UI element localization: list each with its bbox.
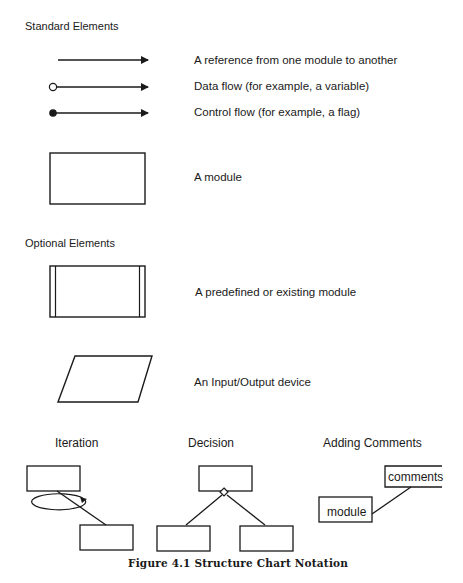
- decision-diagram: [157, 466, 293, 551]
- loop-arrow-icon: [32, 494, 86, 510]
- decision-diamond-icon: [220, 488, 228, 496]
- predefined-module-icon: [50, 266, 145, 317]
- io-device-parallelogram-icon: [58, 356, 152, 402]
- comments-diagram: [319, 466, 442, 522]
- diagram-canvas: [0, 0, 463, 583]
- control-flow-arrow-icon: [49, 109, 148, 117]
- comment-bracket-icon: [385, 466, 442, 487]
- iteration-diagram: [27, 466, 133, 550]
- data-flow-arrow-icon: [49, 83, 148, 90]
- module-rectangle-icon: [50, 153, 145, 204]
